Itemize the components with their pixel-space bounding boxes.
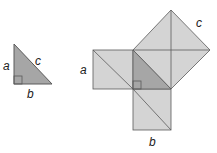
small-right-triangle (14, 44, 52, 84)
small-label-a: a (3, 59, 10, 73)
square-b (133, 89, 171, 130)
small-label-b: b (27, 87, 34, 101)
large-label-a: a (80, 63, 87, 77)
pythagorean-diagram: a c b a c b (0, 0, 217, 153)
large-label-c: c (196, 16, 202, 30)
large-label-b: b (149, 135, 156, 149)
square-a (93, 50, 133, 89)
small-label-c: c (35, 54, 41, 68)
